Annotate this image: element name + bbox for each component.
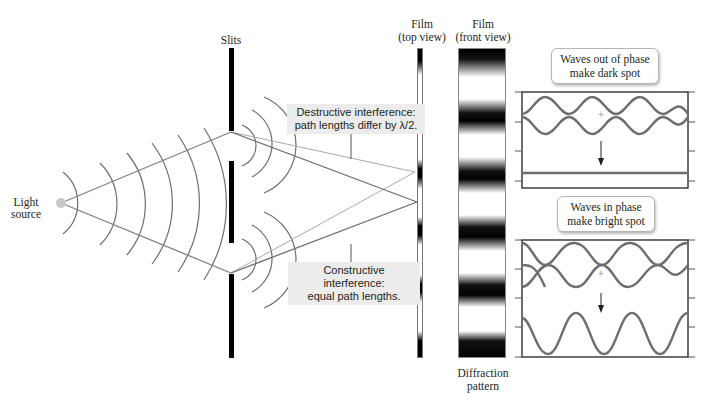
in-phase-panel [515,240,695,357]
diffraction-pattern-label: Diffraction pattern [447,367,519,393]
slits-label: Slits [211,34,251,47]
slit-barrier [229,48,234,358]
light-source-label: Light source [6,196,46,220]
source-rays [61,132,231,273]
in-phase-bubble: Waves in phase make bright spot [557,196,655,232]
destructive-line2: path lengths differ by λ/2. [291,119,421,132]
out-of-phase-line1: Waves out of phase [558,52,652,66]
light-source-dot [56,198,66,208]
film-front-label: Film (front view) [447,18,519,44]
diffraction-label-line1: Diffraction [447,367,519,380]
constructive-line1: Constructive interference: [292,264,416,290]
out-of-phase-line2: make dark spot [558,66,652,80]
film-front-view [458,48,506,358]
in-phase-plus: + [595,268,607,281]
destructive-interference-callout: Destructive interference: path lengths d… [287,104,425,134]
out-of-phase-plus: + [595,109,607,122]
film-front-label-line1: Film [447,18,519,31]
film-top-label: Film (top view) [388,18,456,44]
film-front-label-line2: (front view) [447,31,519,44]
film-top-label-line2: (top view) [388,31,456,44]
film-top-label-line1: Film [388,18,456,31]
constructive-line2: equal path lengths. [292,290,416,303]
diffraction-label-line2: pattern [447,380,519,393]
destructive-line1: Destructive interference: [291,106,421,119]
light-source-label-line2: source [6,208,46,220]
constructive-interference-callout: Constructive interference: equal path le… [288,262,420,305]
in-phase-line1: Waves in phase [564,200,648,214]
light-source-label-line1: Light [6,196,46,208]
in-phase-line2: make bright spot [564,214,648,228]
out-of-phase-bubble: Waves out of phase make dark spot [551,48,659,84]
slit-to-film-rays [231,132,417,273]
film-top-view [417,48,423,358]
incident-wavefronts [63,128,226,280]
out-of-phase-panel [515,92,695,188]
